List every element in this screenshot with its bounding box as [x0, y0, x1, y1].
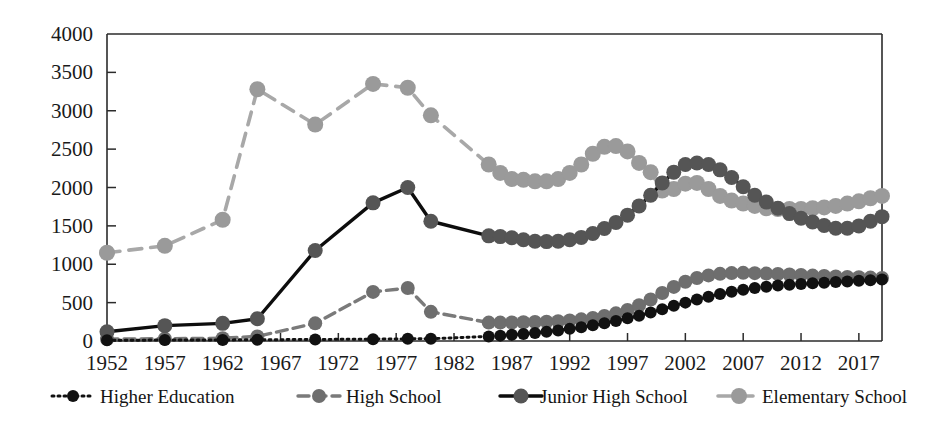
data-point-marker [215, 212, 231, 228]
data-point-marker [307, 117, 323, 133]
legend-marker-icon [731, 388, 747, 404]
x-tick-label: 2012 [780, 351, 822, 375]
data-point-marker [308, 316, 322, 330]
data-point-marker [656, 303, 668, 315]
data-point-marker [643, 188, 658, 203]
data-point-marker [633, 310, 645, 322]
series-layer [99, 76, 890, 346]
y-tick-label: 2000 [51, 176, 93, 200]
legend-item[interactable]: Elementary School [718, 386, 907, 407]
legend-marker-icon [312, 389, 326, 403]
data-point-marker [830, 276, 842, 288]
data-point-marker [807, 277, 819, 289]
data-point-marker [423, 107, 439, 123]
x-tick-label: 1992 [549, 351, 591, 375]
series-junior-high-school [100, 155, 890, 339]
chart-container: 05001000150020002500300035004000 1952195… [0, 0, 940, 424]
data-point-marker [853, 275, 865, 287]
data-point-marker [841, 275, 853, 287]
data-point-marker [101, 334, 113, 346]
series-line [107, 163, 882, 332]
data-point-marker [598, 317, 610, 329]
data-point-marker [726, 286, 738, 298]
data-point-marker [714, 288, 726, 300]
data-point-marker [620, 143, 636, 159]
data-point-marker [668, 300, 680, 312]
y-axis-tick-marks [107, 72, 116, 341]
data-point-marker [425, 333, 437, 345]
legend-label: Higher Education [100, 386, 235, 407]
x-tick-label: 1962 [202, 351, 244, 375]
legend-label: Junior High School [540, 386, 688, 407]
x-tick-label: 1952 [86, 351, 128, 375]
data-point-marker [645, 306, 657, 318]
legend-label: Elementary School [762, 386, 907, 407]
legend-item[interactable]: High School [298, 386, 442, 407]
data-point-marker [308, 243, 323, 258]
series-higher-education [101, 274, 888, 347]
y-tick-label: 4000 [51, 22, 93, 46]
data-point-marker [702, 291, 714, 303]
data-point-marker [564, 323, 576, 335]
x-tick-label: 2007 [722, 351, 764, 375]
data-point-marker [400, 80, 416, 96]
y-tick-label: 1500 [51, 214, 93, 238]
data-point-marker [876, 274, 888, 286]
x-tick-label: 2002 [664, 351, 706, 375]
data-point-marker [875, 209, 890, 224]
chart-legend: Higher EducationHigh SchoolJunior High S… [52, 386, 907, 407]
data-point-marker [215, 316, 230, 331]
data-point-marker [575, 321, 587, 333]
legend-item[interactable]: Junior High School [500, 386, 688, 407]
data-point-marker [159, 334, 171, 346]
data-point-marker [749, 282, 761, 294]
legend-marker-icon [514, 389, 529, 404]
data-point-marker [632, 198, 647, 213]
data-point-marker [251, 334, 263, 346]
data-point-marker [874, 188, 890, 204]
legend-item[interactable]: Higher Education [52, 386, 235, 407]
data-point-marker [366, 285, 380, 299]
data-point-marker [864, 274, 876, 286]
data-point-marker [401, 281, 415, 295]
data-point-marker [217, 334, 229, 346]
x-tick-label: 1957 [144, 351, 186, 375]
y-tick-label: 1000 [51, 252, 93, 276]
data-point-marker [691, 294, 703, 306]
data-point-marker [423, 214, 438, 229]
data-point-marker [157, 318, 172, 333]
data-point-marker [622, 312, 634, 324]
data-point-marker [309, 333, 321, 345]
data-point-marker [643, 164, 659, 180]
data-point-marker [818, 277, 830, 289]
data-point-marker [587, 319, 599, 331]
x-tick-label: 1982 [433, 351, 475, 375]
data-point-marker [506, 329, 518, 341]
x-tick-label: 1977 [375, 351, 417, 375]
data-point-marker [737, 284, 749, 296]
data-point-marker [610, 315, 622, 327]
data-point-marker [402, 333, 414, 345]
data-point-marker [772, 280, 784, 292]
data-point-marker [483, 330, 495, 342]
data-point-marker [494, 330, 506, 342]
x-tick-label: 2017 [838, 351, 880, 375]
y-tick-label: 3000 [51, 99, 93, 123]
plot-frame [107, 34, 882, 341]
y-tick-label: 0 [83, 329, 94, 353]
data-point-marker [366, 195, 381, 210]
data-point-marker [517, 328, 529, 340]
data-point-marker [157, 238, 173, 254]
y-tick-label: 500 [62, 291, 94, 315]
x-tick-label: 1987 [491, 351, 533, 375]
data-point-marker [679, 297, 691, 309]
line-chart-figure: 05001000150020002500300035004000 1952195… [0, 0, 940, 424]
data-point-marker [529, 327, 541, 339]
data-point-marker [760, 281, 772, 293]
data-point-marker [400, 180, 415, 195]
y-tick-label: 3500 [51, 60, 93, 84]
x-tick-label: 1967 [260, 351, 302, 375]
data-point-marker [249, 81, 265, 97]
x-axis-tick-labels: 1952195719621967197219771982198719921997… [86, 351, 880, 375]
legend-label: High School [346, 386, 442, 407]
